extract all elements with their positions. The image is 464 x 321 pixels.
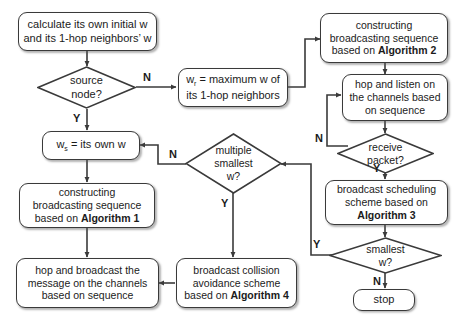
alg3-line1: broadcast scheduling: [337, 183, 436, 195]
hopbroadcast-line3: based on sequence: [42, 289, 134, 301]
multiple-line2: smallest: [214, 157, 253, 169]
edge-label-multiple-yes: Y: [221, 198, 228, 209]
wr-line1-b: = maximum w of: [196, 73, 279, 85]
edge-label-smallest-yes: Y: [313, 239, 320, 250]
alg1-line3-pre: based on: [35, 212, 81, 224]
stop-label: stop: [374, 293, 395, 305]
alg4-line2: avoidance scheme: [193, 277, 281, 289]
alg2-line2: broadcasting sequence: [330, 32, 439, 44]
flowchart-canvas: calculate its own initial w and its 1-ho…: [0, 0, 464, 321]
receive-line1: receive: [369, 141, 403, 153]
node-collision-avoidance-alg4: broadcast collision avoidance scheme bas…: [176, 258, 297, 308]
receive-line2: packet?: [367, 154, 404, 166]
smallest-line1: smallest: [366, 243, 405, 255]
node-construct-alg1: constructing broadcasting sequence based…: [19, 183, 155, 228]
alg2-line3-pre: based on: [332, 44, 378, 56]
alg4-line1: broadcast collision: [193, 264, 279, 276]
alg2-line3-bold: Algorithm 2: [378, 44, 436, 56]
edge-label-smallest-no: N: [373, 276, 381, 287]
node-construct-alg2: constructing broadcasting sequence based…: [320, 13, 448, 63]
hoplisten-line3: on sequence: [365, 104, 425, 116]
edge-label-receive-no: N: [315, 133, 323, 144]
node-wr-maximum-w: wr = maximum w of its 1-hop neighbors: [178, 68, 288, 107]
node-broadcast-scheduling-alg3: broadcast scheduling scheme based on Alg…: [325, 180, 448, 225]
hoplisten-line1: hop and listen on: [355, 78, 435, 90]
edge-label-multiple-no: N: [169, 149, 177, 160]
alg1-line3-bold: Algorithm 1: [81, 212, 139, 224]
node-multiple-smallest-w-decision: multiple smallest w?: [185, 133, 282, 194]
alg1-line1: constructing: [59, 186, 116, 198]
edge-label-source-yes: Y: [73, 113, 80, 124]
wr-line1-a: w: [186, 73, 194, 85]
source-line2: node?: [71, 88, 102, 100]
smallest-line2: w?: [379, 256, 392, 268]
alg3-line2: scheme based on: [345, 196, 428, 208]
hoplisten-line2: the channels based: [349, 91, 440, 103]
multiple-line3: w?: [227, 170, 240, 182]
ws-line1-b: = its own w: [68, 138, 126, 150]
node-smallest-w-decision: smallest w?: [329, 237, 442, 274]
source-line1: source: [70, 74, 103, 86]
node-stop: stop: [353, 289, 415, 311]
calc-line1: calculate its own initial w: [28, 18, 148, 30]
node-ws-its-own-w: ws = its own w: [42, 131, 140, 160]
edge-multiple-no-to-ws: [140, 145, 186, 164]
node-source-node-decision: source node?: [37, 66, 136, 109]
edge-wr-to-alg2: [288, 39, 320, 87]
node-calculate-initial-w: calculate its own initial w and its 1-ho…: [18, 12, 157, 51]
hopbroadcast-line1: hop and broadcast the: [35, 264, 140, 276]
alg4-line3-bold: Algorithm 4: [230, 289, 288, 301]
hopbroadcast-line2: message on the channels: [28, 277, 148, 289]
alg2-line1: constructing: [356, 19, 413, 31]
alg3-line3-bold: Algorithm 3: [357, 209, 415, 221]
node-hop-and-listen: hop and listen on the channels based on …: [342, 74, 448, 121]
alg4-line3-pre: based on: [184, 289, 230, 301]
node-hop-and-broadcast: hop and broadcast the message on the cha…: [16, 258, 159, 308]
node-receive-packet-decision: receive packet?: [337, 133, 434, 174]
multiple-line1: multiple: [215, 144, 251, 156]
calc-line2: and its 1-hop neighbors’ w: [23, 32, 151, 44]
edge-label-source-no: N: [143, 72, 151, 83]
alg1-line2: broadcasting sequence: [33, 199, 142, 211]
wr-line2: its 1-hop neighbors: [186, 89, 280, 101]
